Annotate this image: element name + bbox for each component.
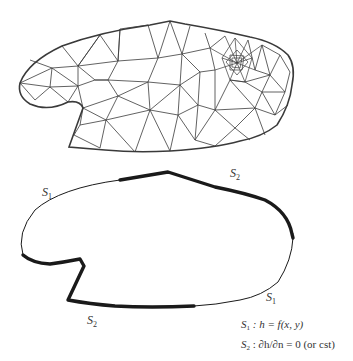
label-s1-top-left: S1 <box>42 185 52 201</box>
label-s1-bottom-right: S1 <box>266 290 276 306</box>
label-subscript: 2 <box>93 320 97 329</box>
boundary-diagram <box>21 172 293 307</box>
triangular-mesh <box>19 21 293 152</box>
legend-line-s2: S2 : ∂h/∂n = 0 (or cst) <box>241 336 335 356</box>
legend-line-s1: S1 : h = f(x, y) <box>241 316 335 336</box>
boundary-s1-right <box>194 238 293 306</box>
boundary-condition-legend: S1 : h = f(x, y) S2 : ∂h/∂n = 0 (or cst) <box>241 316 335 356</box>
legend-equation: : h = f(x, y) <box>250 318 303 330</box>
label-subscript: 1 <box>48 192 52 201</box>
legend-equation: : ∂h/∂n = 0 (or cst) <box>250 338 335 350</box>
label-s2-top-right: S2 <box>230 166 240 182</box>
boundary-s2-top <box>120 172 293 238</box>
boundary-s1-left <box>21 180 120 255</box>
label-s2-bottom-left: S2 <box>87 313 97 329</box>
label-subscript: 1 <box>272 297 276 306</box>
mesh-and-boundary-figure <box>0 0 353 361</box>
label-subscript: 2 <box>236 173 240 182</box>
boundary-s2-bottom <box>23 255 194 307</box>
